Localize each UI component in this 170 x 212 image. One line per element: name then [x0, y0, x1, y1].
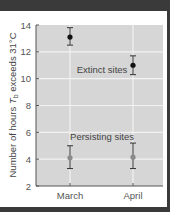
y-tick-label: 12 [20, 46, 31, 57]
y-tick-label: 6 [26, 127, 31, 138]
y-tick-label: 4 [26, 154, 31, 165]
x-tick-label: April [123, 190, 142, 201]
data-point [130, 63, 135, 68]
data-point [67, 34, 72, 39]
y-axis-label: Number of hours Tb exceeds 31°C [7, 32, 19, 177]
x-tick-label: March [57, 190, 83, 201]
chart: 2468101214 MarchApril Number of hours Tb… [0, 0, 170, 212]
y-tick-label: 10 [20, 73, 31, 84]
data-point [67, 155, 72, 160]
annotation-persisting-sites: Persisting sites [70, 131, 134, 142]
y-tick-labels: 2468101214 [20, 20, 31, 192]
data-point [130, 155, 135, 160]
annotation-extinct-sites: Extinct sites [77, 64, 128, 75]
y-tick-label: 2 [26, 181, 31, 192]
x-tick-labels: MarchApril [57, 190, 143, 201]
y-tick-label: 14 [20, 20, 31, 31]
y-tick-label: 8 [26, 100, 31, 111]
